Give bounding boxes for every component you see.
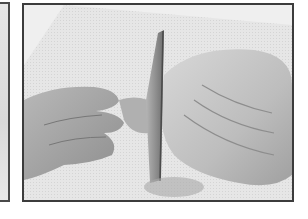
chicken-cutting-photo [24, 5, 292, 200]
photo-frame [22, 3, 294, 202]
knife-shadow [144, 177, 204, 197]
previous-photo-frame [0, 2, 10, 202]
